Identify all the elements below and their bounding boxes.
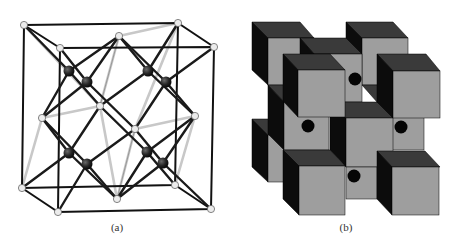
dot [349,73,362,86]
atom-light [54,208,61,215]
atom-light [113,195,120,202]
cube [377,151,440,215]
atom-dark [82,159,93,170]
atom-light [131,125,138,132]
atom-light [18,184,25,191]
atom-light [56,44,63,51]
dot [395,121,408,134]
atom-dark [161,77,172,88]
atom-light [210,43,217,50]
dot [302,120,315,133]
atom-dark [64,148,75,159]
atom-dark [82,77,93,88]
atom-light [174,19,181,26]
panel-a-ball-and-stick [18,19,217,215]
atom-light [171,181,178,188]
cube [283,54,345,117]
atom-light [191,112,198,119]
cube [377,54,440,118]
atom-dark [64,66,75,77]
atom-light [207,205,214,212]
panel-b-cube-model [252,22,440,215]
light-bond-outlines [100,36,135,199]
atom-light [115,32,122,39]
atom-light [20,21,27,28]
atom-dark [158,158,169,169]
atom-light [38,114,45,121]
atom-dark [143,66,154,77]
dot [348,170,361,183]
crystal-structure-figure [0,0,453,250]
atom-light [96,102,103,109]
panel-label-a: (a) [97,221,137,233]
atom-dark [142,147,153,158]
cube [283,150,345,215]
panel-label-b: (b) [326,221,366,233]
